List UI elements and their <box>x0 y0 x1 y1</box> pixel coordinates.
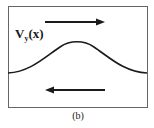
figure-caption: (b) <box>0 110 154 121</box>
bottom-arrow-left-icon <box>45 87 105 94</box>
curve-label: Vy(x) <box>15 26 44 43</box>
velocity-profile-curve <box>8 42 147 73</box>
curve-label-argument: (x) <box>28 26 43 41</box>
curve-label-main: V <box>15 26 24 41</box>
diagram-canvas <box>0 0 154 128</box>
top-arrow-right-icon <box>45 19 105 26</box>
